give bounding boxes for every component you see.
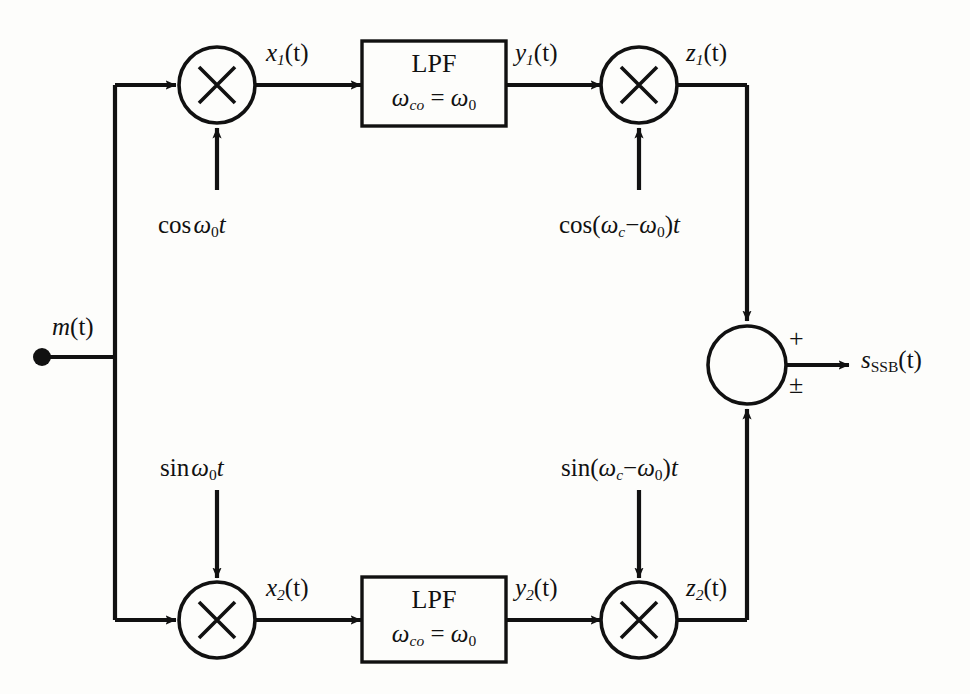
block-diagram-canvas: m(t) x1(t) y1(t) z1(t) x2(t) y2(t) z2(t)… — [0, 0, 970, 694]
oscillator-label-bottom-left: sin ω0t — [160, 455, 224, 483]
label-signal-z2: z2(t) — [686, 575, 727, 603]
label-output-ssb: sSSB(t) — [861, 347, 922, 375]
summer-sign-positive: + — [789, 324, 804, 354]
lpf-top-name: LPF — [362, 49, 506, 79]
lpf-bottom-name: LPF — [362, 585, 506, 615]
label-signal-x2: x2(t) — [266, 575, 308, 603]
label-signal-x1: x1(t) — [266, 40, 308, 68]
mixer-bottom-right[interactable] — [601, 582, 677, 658]
summer-sign-plusminus: ± — [789, 370, 803, 400]
mixer-bottom-left[interactable] — [179, 582, 255, 658]
mixer-top-right[interactable] — [601, 47, 677, 123]
oscillator-label-top-left: cos ω0t — [158, 212, 226, 240]
label-signal-y2: y2(t) — [515, 575, 557, 603]
lpf-top-cutoff: ωco = ω0 — [362, 84, 506, 114]
label-input-signal: m(t) — [52, 314, 94, 339]
label-signal-y1: y1(t) — [515, 40, 557, 68]
oscillator-label-bottom-right: sin(ωc−ω0)t — [561, 455, 678, 483]
summing-junction[interactable] — [708, 326, 786, 404]
oscillator-label-top-right: cos(ωc−ω0)t — [559, 212, 680, 240]
mixer-top-left[interactable] — [179, 47, 255, 123]
input-terminal-dot — [33, 348, 51, 366]
label-signal-z1: z1(t) — [686, 40, 727, 68]
lpf-bottom-cutoff: ωco = ω0 — [362, 620, 506, 650]
